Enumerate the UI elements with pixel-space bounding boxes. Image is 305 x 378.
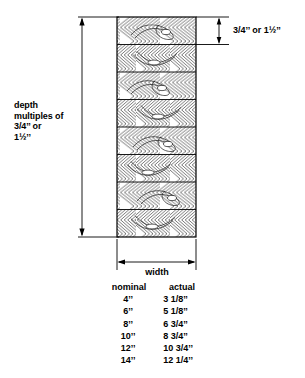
lamination-band-5 bbox=[117, 127, 196, 155]
depth-arrow-head-down bbox=[79, 229, 84, 237]
table-body: 4’’ 3 1/8’’ 6’’ 5 1/8’’ 8’’ 6 3/4’’ 10’’… bbox=[104, 293, 210, 366]
table-row: 4’’ 3 1/8’’ bbox=[104, 293, 210, 305]
width-arrow-head-left bbox=[117, 260, 125, 265]
cell-actual: 12 1/4’’ bbox=[154, 354, 210, 366]
lamination-band-7 bbox=[117, 182, 196, 210]
depth-arrow-head-up bbox=[79, 18, 84, 26]
cell-nominal: 10’’ bbox=[104, 330, 154, 342]
cell-nominal: 6’’ bbox=[104, 305, 154, 317]
cell-actual: 8 3/4’’ bbox=[154, 330, 210, 342]
column-header-actual: actual bbox=[154, 281, 210, 293]
lam-arrow-head-down bbox=[217, 37, 222, 44]
lamination-band-1 bbox=[117, 17, 196, 45]
cell-nominal: 14’’ bbox=[104, 354, 154, 366]
cell-actual: 10 3/4’’ bbox=[154, 342, 210, 354]
lamination-thickness-label: 3/4’’ or 1½’’ bbox=[233, 25, 281, 36]
lamination-thickness-dimension bbox=[196, 17, 229, 45]
table-header-row: nominal actual bbox=[104, 281, 210, 293]
table-row: 14’’ 12 1/4’’ bbox=[104, 354, 210, 366]
diagram-canvas: depth multiples of 3/4’’ or 1½’’ 3/4’’ o… bbox=[0, 0, 305, 378]
cell-nominal: 12’’ bbox=[104, 342, 154, 354]
lam-arrow-head-up bbox=[217, 18, 222, 25]
lamination-band-8 bbox=[117, 210, 196, 238]
cell-actual: 5 1/8’’ bbox=[154, 305, 210, 317]
table-row: 8’’ 6 3/4’’ bbox=[104, 318, 210, 330]
cell-nominal: 8’’ bbox=[104, 318, 154, 330]
lamination-band-4 bbox=[117, 100, 196, 128]
width-arrow-head-right bbox=[188, 260, 196, 265]
cell-nominal: 4’’ bbox=[104, 293, 154, 305]
depth-dimension bbox=[78, 17, 119, 237]
lamination-band-3 bbox=[117, 72, 196, 100]
width-label: width bbox=[117, 267, 197, 278]
lamination-band-6 bbox=[117, 155, 196, 183]
table-row: 6’’ 5 1/8’’ bbox=[104, 305, 210, 317]
width-sizes-table: nominal actual 4’’ 3 1/8’’ 6’’ 5 1/8’’ 8… bbox=[104, 281, 210, 366]
lamination-band-2 bbox=[117, 45, 196, 73]
table-row: 10’’ 8 3/4’’ bbox=[104, 330, 210, 342]
cell-actual: 3 1/8’’ bbox=[154, 293, 210, 305]
cell-actual: 6 3/4’’ bbox=[154, 318, 210, 330]
column-header-nominal: nominal bbox=[104, 281, 154, 293]
width-dimension bbox=[117, 239, 196, 270]
beam-laminations bbox=[117, 17, 196, 237]
table-row: 12’’ 10 3/4’’ bbox=[104, 342, 210, 354]
depth-label: depth multiples of 3/4’’ or 1½’’ bbox=[14, 100, 63, 142]
